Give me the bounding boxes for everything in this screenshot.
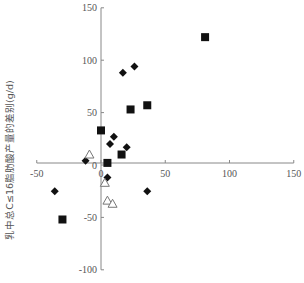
square-marker — [127, 105, 135, 113]
diamond-marker — [123, 143, 131, 151]
y-tick-label: 0 — [92, 160, 97, 171]
diamond-marker — [110, 133, 118, 141]
triangle-marker — [85, 150, 94, 158]
y-tick-label: -50 — [84, 212, 97, 223]
data-points — [51, 33, 209, 223]
tick-labels: -50050100150-100-50050100150 — [30, 2, 301, 275]
x-tick-label: 100 — [222, 168, 237, 179]
square-marker — [143, 101, 151, 109]
diamond-marker — [130, 62, 138, 70]
x-tick-label: -50 — [30, 168, 43, 179]
x-tick-label: 50 — [160, 168, 170, 179]
y-axis-label: 乳中总C≤16脂肪酸产量的差别(g/d) — [2, 70, 16, 250]
y-tick-label: 150 — [82, 2, 97, 13]
x-tick-label: 150 — [286, 168, 301, 179]
y-tick-label: 100 — [82, 55, 97, 66]
y-tick-label: -100 — [79, 264, 97, 275]
diamond-marker — [51, 187, 59, 195]
square-marker — [103, 159, 111, 167]
y-tick-label: 50 — [87, 107, 97, 118]
square-marker — [118, 151, 126, 159]
x-tick-label: 0 — [99, 168, 104, 179]
axes — [37, 8, 294, 270]
diamond-marker — [143, 187, 151, 195]
diamond-marker — [106, 140, 114, 148]
square-marker — [201, 33, 209, 41]
y-axis-label-text: 乳中总C≤16脂肪酸产量的差别(g/d) — [2, 80, 16, 239]
square-marker — [97, 126, 105, 134]
scatter-chart: -50050100150-100-50050100150 — [0, 0, 304, 283]
diamond-marker — [119, 69, 127, 77]
square-marker — [58, 215, 66, 223]
